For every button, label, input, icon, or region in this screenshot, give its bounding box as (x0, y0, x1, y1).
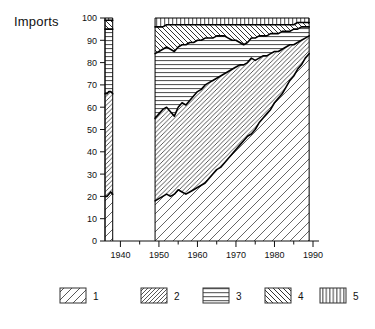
y-tick-label: 0 (92, 236, 97, 246)
legend-label-3: 3 (236, 291, 242, 302)
imports-stacked-area-chart: 0102030405060708090100194019501960197019… (0, 0, 375, 329)
legend-label-5: 5 (353, 291, 359, 302)
y-tick-label: 70 (87, 80, 97, 90)
legend-swatch-4 (265, 288, 291, 303)
area-band-2 (105, 92, 113, 197)
y-tick-label: 60 (87, 103, 97, 113)
x-tick-label: 1970 (226, 250, 246, 260)
chart-container: Imports (0, 0, 375, 329)
y-tick-label: 90 (87, 36, 97, 46)
legend-item-3[interactable]: 3 (203, 288, 242, 303)
y-tick-label: 10 (87, 214, 97, 224)
legend-label-4: 4 (298, 291, 304, 302)
y-tick-label: 50 (87, 125, 97, 135)
x-tick-label: 1980 (264, 250, 284, 260)
x-tick-label: 1960 (187, 250, 207, 260)
page-title: Imports (14, 14, 59, 29)
x-tick-label: 1940 (110, 250, 130, 260)
x-tick-label: 1950 (149, 250, 169, 260)
x-tick-label: 1990 (303, 250, 323, 260)
legend-label-2: 2 (174, 291, 180, 302)
legend-item-5[interactable]: 5 (320, 288, 359, 303)
legend-swatch-3 (203, 288, 229, 303)
y-tick-label: 100 (82, 13, 97, 23)
area-band-1 (105, 192, 113, 241)
legend-item-1[interactable]: 1 (60, 288, 99, 303)
area-band-4 (105, 20, 113, 29)
legend-swatch-2 (141, 288, 167, 303)
legend-swatch-5 (320, 288, 346, 303)
y-tick-label: 80 (87, 58, 97, 68)
y-tick-label: 40 (87, 147, 97, 157)
area-band-3 (105, 29, 113, 94)
y-tick-label: 30 (87, 170, 97, 180)
legend-swatch-1 (60, 288, 86, 303)
chart-legend: 12345 (60, 288, 359, 303)
legend-label-1: 1 (93, 291, 99, 302)
legend-item-4[interactable]: 4 (265, 288, 304, 303)
y-tick-label: 20 (87, 192, 97, 202)
legend-item-2[interactable]: 2 (141, 288, 180, 303)
